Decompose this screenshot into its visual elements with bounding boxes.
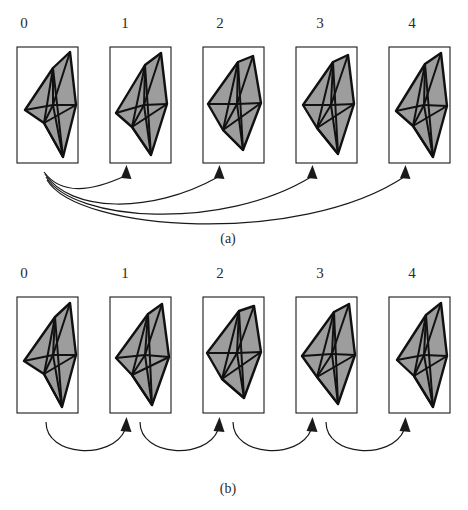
panel-b-item-label-4: 4 (408, 265, 416, 281)
arrow-0-to-1 (44, 165, 132, 189)
panel-a-item-label-0: 0 (20, 15, 28, 31)
panel-b-cell-3 (296, 297, 357, 413)
panel-a-item-label-1: 1 (121, 15, 129, 31)
panel-a: 0 1 2 3 4 (17, 15, 450, 247)
panel-b-cell-4 (389, 297, 450, 413)
arrow-1-to-2 (140, 417, 225, 451)
panel-a-item-label-3: 3 (316, 15, 324, 31)
panel-b-item-label-1: 1 (121, 265, 129, 281)
arrow-head-icon (400, 417, 411, 432)
panel-a-cell-3 (296, 47, 357, 163)
arrow-0-to-4 (47, 165, 411, 224)
panel-b-arrows (46, 417, 411, 451)
panel-a-cell-1 (110, 47, 171, 163)
panel-b-caption: (b) (220, 481, 237, 497)
panel-b-item-label-3: 3 (316, 265, 324, 281)
panel-b-cell-1 (110, 297, 171, 413)
panel-a-caption: (a) (220, 231, 236, 247)
panel-b: 0 1 2 3 4 (17, 265, 450, 497)
arrow-head-icon (400, 165, 411, 179)
arrow-head-icon (214, 417, 225, 432)
arrow-head-icon (121, 417, 132, 432)
arrow-head-icon (307, 417, 318, 432)
arrow-head-icon (121, 165, 132, 179)
arrow-2-to-3 (233, 417, 318, 451)
panel-a-cell-0 (17, 47, 78, 163)
panel-b-item-label-2: 2 (216, 265, 224, 281)
panel-a-item-label-2: 2 (216, 15, 224, 31)
arrow-head-icon (214, 165, 225, 179)
figure-root: 0 1 2 3 4 (0, 0, 468, 510)
panel-a-cell-4 (389, 47, 450, 163)
panel-b-cell-0 (17, 297, 78, 413)
panel-a-arrows (44, 165, 411, 224)
panel-b-item-label-0: 0 (20, 265, 28, 281)
panel-b-cell-2 (203, 297, 264, 413)
arrow-3-to-4 (326, 417, 411, 451)
arrow-head-icon (307, 165, 318, 179)
panel-a-cell-2 (203, 47, 264, 163)
panel-a-item-label-4: 4 (408, 15, 416, 31)
arrow-0-to-1 (46, 417, 132, 451)
